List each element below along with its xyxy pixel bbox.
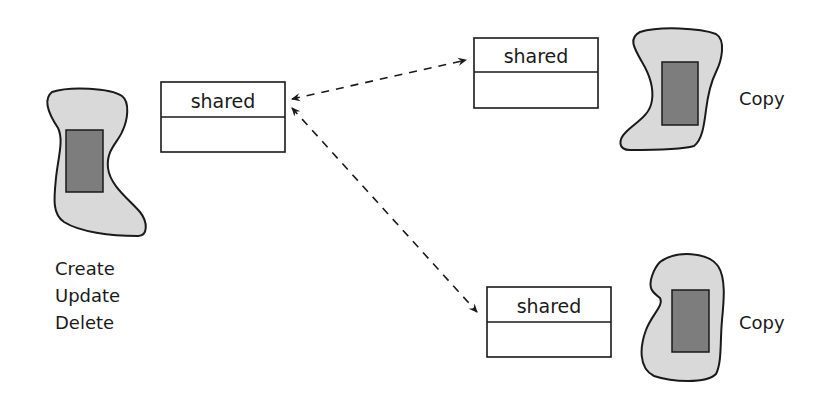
replica-2-shared-title: shared xyxy=(517,295,582,317)
replica-1-database-blob xyxy=(620,28,722,150)
connector-source-to-replica-1 xyxy=(292,60,466,99)
source-data-rect xyxy=(66,130,103,192)
label-create: Create xyxy=(55,258,115,279)
replica-1-shared-title: shared xyxy=(504,45,569,67)
source-shared-box: shared xyxy=(161,82,285,152)
source-shared-title: shared xyxy=(191,90,256,112)
replica-2-label: Copy xyxy=(739,312,785,333)
replica-1-data-rect xyxy=(662,62,698,125)
replica-2-data-rect xyxy=(672,290,709,352)
source-database-blob xyxy=(47,89,145,236)
label-update: Update xyxy=(55,285,120,306)
connector-source-to-replica-2 xyxy=(292,108,477,312)
replica-1-label: Copy xyxy=(739,88,785,109)
replication-diagram: Create Update Delete shared shared Copy … xyxy=(0,0,838,397)
label-delete: Delete xyxy=(55,312,114,333)
replica-2-shared-box: shared xyxy=(487,287,611,357)
replica-1-shared-box: shared xyxy=(474,38,598,108)
replica-2-database-blob xyxy=(642,254,724,381)
